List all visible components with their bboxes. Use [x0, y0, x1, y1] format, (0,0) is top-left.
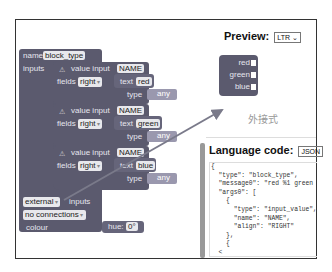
hue-label: hue:: [108, 222, 124, 232]
input-3-text-label: text: [120, 161, 133, 171]
preview-label-blue: blue: [235, 82, 250, 92]
input-2-kind: value input: [71, 106, 110, 116]
divider: [206, 137, 316, 138]
input-1-kind: value input: [71, 64, 110, 74]
input-connector: [251, 84, 256, 90]
preview-caption: 外接式: [248, 111, 278, 126]
blockly-workspace[interactable]: name block_type inputs ⚠ value input NAM…: [16, 20, 199, 258]
input-1-text-label: text: [120, 77, 133, 87]
preview-title: Preview: LTR ⌄: [224, 30, 301, 43]
input-3-type-block[interactable]: any: [147, 173, 177, 184]
input-1-align-dropdown[interactable]: right: [78, 77, 102, 87]
input-2-text-field[interactable]: green: [136, 119, 160, 128]
input-connector: [251, 60, 256, 66]
input-1-type-label: type: [127, 90, 142, 100]
input-3-type-value: any: [157, 173, 170, 183]
warning-icon: ⚠: [59, 65, 65, 74]
hue-field[interactable]: 0°: [126, 222, 138, 231]
direction-value: LTR: [277, 34, 290, 41]
preview-title-text: Preview:: [224, 30, 269, 42]
input-3-text-field[interactable]: blue: [136, 161, 155, 170]
factory-frame: name block_type inputs ⚠ value input NAM…: [15, 19, 317, 259]
input-2-name-field[interactable]: NAME: [117, 106, 144, 115]
input-1-text-field[interactable]: red: [136, 77, 152, 86]
input-1-type-value: any: [157, 89, 170, 99]
warning-icon: ⚠: [59, 107, 65, 116]
preview-label-green: green: [230, 70, 250, 80]
output-panel: Preview: LTR ⌄ red green blue 外接式 Langua…: [206, 20, 316, 258]
inputs-mode-dropdown[interactable]: external: [23, 197, 60, 207]
input-3-type-label: type: [127, 174, 142, 184]
name-label: name: [23, 51, 43, 61]
vertical-scrollbar[interactable]: [200, 143, 205, 258]
language-title-text: Language code:: [209, 144, 293, 156]
connections-dropdown[interactable]: no connections: [23, 210, 86, 220]
input-1-type-block[interactable]: any: [147, 89, 177, 100]
preview-block[interactable]: red green blue: [219, 55, 258, 96]
input-3-fields-label: fields: [57, 161, 76, 171]
input-2-type-block[interactable]: any: [147, 131, 177, 142]
input-1-fields-label: fields: [57, 77, 76, 87]
input-3-name-field[interactable]: NAME: [117, 148, 144, 157]
format-select[interactable]: JSON: [298, 146, 323, 157]
colour-label: colour: [26, 223, 48, 233]
language-title: Language code: JSON: [209, 144, 323, 157]
input-connector: [251, 72, 256, 78]
input-1-name-field[interactable]: NAME: [117, 64, 144, 73]
inputs-suffix-label: inputs: [69, 197, 90, 207]
block-name-field[interactable]: block_type: [43, 51, 85, 60]
input-2-text-label: text: [120, 119, 133, 129]
code-output[interactable]: { "type": "block_type", "message0": "red…: [209, 162, 317, 257]
warning-icon: ⚠: [59, 149, 65, 158]
inputs-label: inputs: [23, 64, 44, 74]
input-2-type-label: type: [127, 132, 142, 142]
preview-label-red: red: [238, 58, 250, 68]
input-2-type-value: any: [157, 131, 170, 141]
input-3-align-dropdown[interactable]: right: [78, 161, 102, 171]
input-3-kind: value input: [71, 148, 110, 158]
direction-select[interactable]: LTR ⌄: [274, 32, 301, 43]
input-2-fields-label: fields: [57, 119, 76, 129]
input-2-align-dropdown[interactable]: right: [78, 119, 102, 129]
